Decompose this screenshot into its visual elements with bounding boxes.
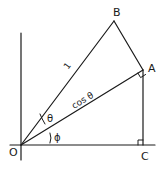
geometry-diagram: B A C O 1 cos θ θ ϕ: [0, 0, 165, 169]
label-theta: θ: [47, 113, 53, 124]
label-O: O: [9, 146, 18, 159]
label-C: C: [141, 150, 149, 163]
right-angle-marker-C: [138, 140, 143, 145]
right-angle-marker-A: [138, 73, 146, 78]
phi-arc: [50, 133, 51, 143]
segment-OA: [21, 70, 143, 145]
label-phi: ϕ: [54, 132, 61, 143]
segment-BA: [114, 21, 143, 70]
label-OB-length: 1: [62, 61, 73, 72]
segment-OB: [21, 21, 114, 145]
label-B: B: [113, 6, 121, 19]
label-A: A: [148, 62, 156, 75]
